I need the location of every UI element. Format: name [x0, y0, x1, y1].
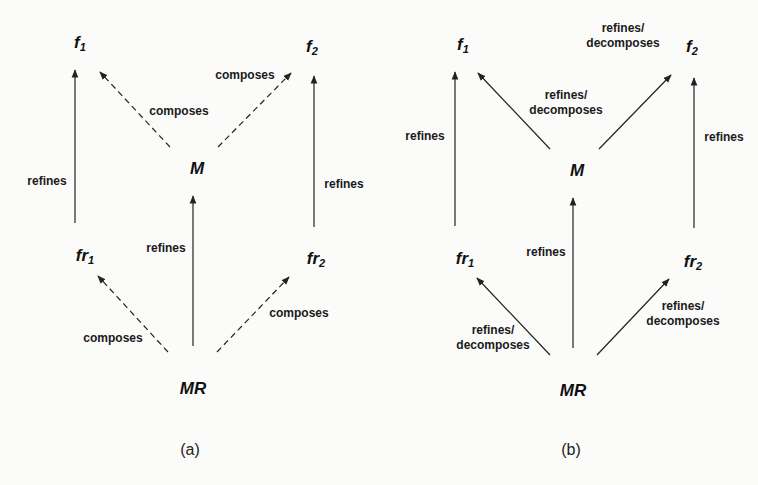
edge-label-a-fr1-f1: refines [27, 174, 66, 189]
caption-a: (a) [180, 442, 200, 458]
edge-b-M-f2 [599, 75, 671, 149]
edge-label-b-MR-fr2: refines/decomposes [646, 299, 719, 329]
edges-layer [0, 0, 758, 485]
edge-label-a-MR-fr1: composes [83, 331, 142, 346]
edge-label-b-fr1-f1: refines [405, 129, 444, 144]
node-b-fr2: fr2 [684, 253, 702, 272]
caption-b: (b) [561, 442, 581, 458]
edge-label-a-fr2-f2: refines [324, 177, 363, 192]
node-a-MR: MR [180, 380, 206, 397]
edge-label-a-MR-M: refines [146, 241, 185, 256]
edge-label-b-MR-M: refines [526, 245, 565, 260]
node-a-M: M [190, 160, 204, 177]
edge-label-a-MR-fr2: composes [269, 306, 328, 321]
node-a-fr2: fr2 [307, 250, 325, 269]
edge-a-M-f2 [218, 73, 291, 147]
figure-canvas: f1 f2 M fr1 fr2 MR refines composes comp… [0, 0, 758, 485]
edge-label-b-M-f2: refines/decomposes [586, 21, 659, 51]
edge-label-b-fr2-f2: refines [704, 130, 743, 145]
edge-label-a-M-f2: composes [215, 68, 274, 83]
edge-label-b-M-f1: refines/decomposes [529, 88, 602, 118]
node-a-f1: f1 [74, 34, 86, 53]
node-b-MR: MR [560, 382, 586, 399]
edge-label-b-MR-fr1: refines/decomposes [456, 323, 529, 353]
node-b-f1: f1 [457, 36, 469, 55]
node-b-M: M [570, 162, 584, 179]
node-b-f2: f2 [686, 38, 698, 57]
edge-label-a-M-f1: composes [149, 104, 208, 119]
node-a-fr1: fr1 [76, 247, 94, 266]
node-b-fr1: fr1 [456, 250, 474, 269]
node-a-f2: f2 [306, 38, 318, 57]
